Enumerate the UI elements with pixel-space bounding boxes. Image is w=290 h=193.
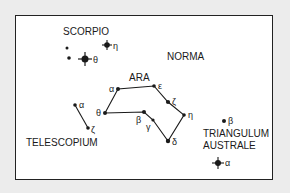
label-telescopium: TELESCOPIUM <box>26 137 98 148</box>
star-dot <box>66 47 69 50</box>
label-scorpio-theta: θ <box>93 55 98 65</box>
star-dot <box>222 119 226 123</box>
label-ara-epsilon: ε <box>158 81 162 91</box>
label-tel-alpha: α <box>79 100 84 110</box>
label-ara: ARA <box>129 72 150 83</box>
star-chart: SCORPIO NORMA ARA TELESCOPIUM TRIANGULUM… <box>0 0 290 193</box>
label-tri-alpha: α <box>225 158 230 168</box>
star-dot <box>73 103 77 107</box>
label-scorpio: SCORPIO <box>63 26 109 37</box>
label-ara-alpha: α <box>109 84 114 94</box>
star-dot <box>67 56 71 60</box>
label-tri-beta: β <box>228 116 233 126</box>
label-australe: AUSTRALE <box>203 140 256 151</box>
label-scorpio-eta: η <box>113 41 118 51</box>
label-ara-eta: η <box>188 110 193 120</box>
label-ara-beta: β <box>136 115 141 125</box>
label-ara-delta: δ <box>172 137 177 147</box>
label-ara-zeta: ζ <box>172 97 176 107</box>
label-ara-theta: θ <box>96 108 101 118</box>
label-tel-zeta: ζ <box>91 125 95 135</box>
label-norma: NORMA <box>167 51 205 62</box>
star-dot <box>86 126 90 130</box>
star-bright-icon <box>102 40 112 50</box>
star-bright-icon <box>78 52 92 66</box>
label-triangulum: TRIANGULUM <box>203 128 269 139</box>
star-bright-icon <box>212 157 224 169</box>
label-ara-gamma: γ <box>146 122 151 132</box>
